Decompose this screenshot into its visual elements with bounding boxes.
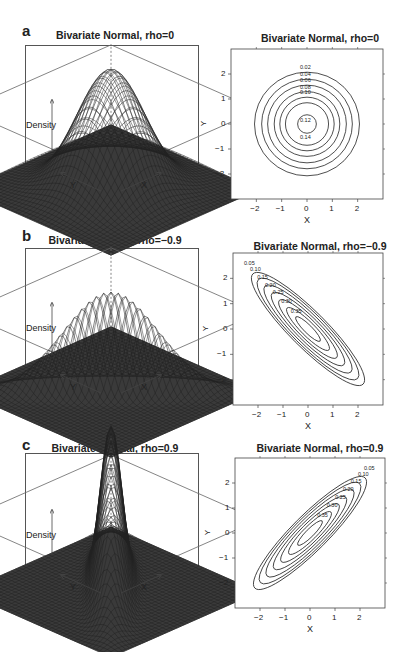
contour-label: 0.02: [300, 64, 311, 70]
y-axis-label: Y: [199, 121, 208, 126]
y-tick-label: −2: [217, 375, 226, 384]
y-tick-label: 0: [221, 119, 225, 128]
x-tick-label: 1: [329, 204, 333, 213]
contour-label: 0.25: [335, 494, 346, 500]
contour-label: 0.15: [257, 274, 268, 280]
x-axis-label: X: [141, 582, 147, 592]
x-tick-label: −2: [250, 204, 259, 213]
y-tick-label: −1: [215, 144, 224, 153]
y-tick-label: −1: [217, 349, 226, 358]
contour-label: 0.20: [343, 486, 354, 492]
x-tick-label: 1: [332, 613, 336, 622]
y-tick-label: 1: [225, 503, 229, 512]
contour-label: 0.30: [281, 298, 292, 304]
contour-label: 0.15: [351, 478, 362, 484]
contour-label: 0.35: [317, 512, 328, 518]
contour-label: 0.25: [273, 289, 284, 295]
y-tick-label: 2: [221, 69, 225, 78]
contour-label: 0.10: [358, 471, 369, 477]
x-axis-label: X: [141, 382, 147, 392]
x-tick-label: 2: [357, 613, 361, 622]
y-tick-label: 1: [223, 299, 227, 308]
contour-label: 0.12: [300, 117, 311, 123]
y-tick-label: 0: [223, 324, 227, 333]
y-tick-label: −1: [219, 553, 228, 562]
x-tick-label: 2: [355, 204, 359, 213]
y-axis-label: Y: [70, 382, 76, 392]
contour-label: 0.30: [327, 502, 338, 508]
x-tick-label: 0: [307, 613, 311, 622]
y-axis-label: Y: [70, 180, 76, 190]
contour-label: 0.06: [300, 77, 311, 83]
x-tick-label: −1: [276, 204, 285, 213]
contour-label: 0.10: [300, 89, 311, 95]
x-tick-label: 1: [330, 410, 334, 419]
x-axis-label: X: [307, 624, 313, 634]
z-axis-label-density: Density: [26, 323, 56, 333]
x-tick-label: −2: [254, 613, 263, 622]
y-tick-label: 2: [225, 478, 229, 487]
contour-label: 0.10: [250, 266, 261, 272]
contour-plot-2: 0.050.100.150.200.250.300.35: [232, 456, 387, 611]
x-axis-label: X: [141, 180, 147, 190]
contour-plot-1: 0.050.100.150.200.250.300.35: [230, 251, 385, 408]
x-tick-label: 0: [304, 204, 308, 213]
x-tick-label: 2: [355, 410, 359, 419]
z-axis-label-density: Density: [26, 120, 56, 130]
y-tick-label: −2: [215, 169, 224, 178]
contour-plot-0: 0.020.040.060.080.100.120.14: [228, 47, 385, 202]
contour-label: 0.35: [291, 308, 302, 314]
x-tick-label: −1: [277, 410, 286, 419]
y-tick-label: 1: [221, 94, 225, 103]
x-axis-label: X: [305, 421, 311, 431]
y-axis-label: Y: [203, 530, 212, 535]
x-tick-label: 0: [305, 410, 309, 419]
z-axis-label-density: Density: [26, 530, 56, 540]
y-tick-label: −2: [219, 578, 228, 587]
contour-label: 0.14: [300, 134, 311, 140]
contour-label: 0.20: [265, 282, 276, 288]
y-axis-label: Y: [70, 582, 76, 592]
y-tick-label: 2: [223, 273, 227, 282]
y-tick-label: 0: [225, 528, 229, 537]
x-tick-label: −2: [252, 410, 261, 419]
x-tick-label: −1: [279, 613, 288, 622]
y-axis-label: Y: [201, 326, 210, 331]
x-axis-label: X: [304, 215, 310, 225]
